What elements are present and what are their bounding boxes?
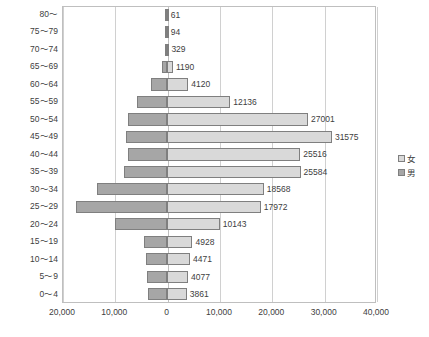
- pyramid-row: 12136: [62, 93, 376, 110]
- bar-value-label: 17972: [264, 200, 288, 214]
- bar-female: [167, 236, 193, 248]
- y-category-label: 30～34: [0, 181, 58, 198]
- bar-female: [167, 26, 169, 38]
- pyramid-row: 25516: [62, 146, 376, 163]
- x-tick-label: 0: [164, 305, 169, 319]
- y-category-label: 15～19: [0, 233, 58, 250]
- pyramid-row: 4077: [62, 268, 376, 285]
- bar-value-label: 4077: [191, 270, 210, 284]
- x-tick-label: 40,000: [363, 305, 389, 319]
- legend-swatch-male: [398, 169, 405, 176]
- x-tick-label: 20,000: [49, 305, 75, 319]
- pyramid-row: 17972: [62, 198, 376, 215]
- bar-value-label: 3861: [190, 287, 209, 301]
- bar-male: [128, 113, 167, 125]
- y-category-label: 0～4: [0, 286, 58, 303]
- y-category-label: 55～59: [0, 93, 58, 110]
- x-tick-label: 20,000: [258, 305, 284, 319]
- pyramid-row: 94: [62, 23, 376, 40]
- bar-value-label: 329: [171, 42, 185, 56]
- bar-value-label: 18568: [267, 182, 291, 196]
- y-category-label: 10～14: [0, 251, 58, 268]
- y-category-label: 25～29: [0, 198, 58, 215]
- bar-male: [97, 183, 167, 195]
- bar-value-label: 94: [171, 25, 180, 39]
- bar-female: [167, 288, 187, 300]
- bar-female: [167, 148, 301, 160]
- bar-male: [147, 271, 166, 283]
- y-category-label: 65～69: [0, 58, 58, 75]
- pyramid-row: 61: [62, 6, 376, 23]
- bar-female: [167, 113, 308, 125]
- bar-value-label: 61: [171, 8, 180, 22]
- bar-male: [137, 96, 167, 108]
- y-category-label: 35～39: [0, 163, 58, 180]
- pyramid-row: 18568: [62, 181, 376, 198]
- bar-female: [167, 44, 169, 56]
- bar-male: [146, 253, 167, 265]
- chart-legend: 女男: [398, 152, 429, 180]
- y-category-label: 20～24: [0, 216, 58, 233]
- bar-female: [167, 78, 189, 90]
- bar-female: [167, 183, 264, 195]
- pyramid-row: 4120: [62, 76, 376, 93]
- x-axis-tick-labels: 20,00010,000010,00020,00030,00040,000: [62, 305, 376, 321]
- pyramid-row: 27001: [62, 111, 376, 128]
- bar-male: [126, 131, 166, 143]
- bar-female: [167, 271, 188, 283]
- legend-label: 女: [407, 154, 416, 164]
- bar-female: [167, 96, 231, 108]
- bar-male: [76, 201, 167, 213]
- y-category-label: 60～64: [0, 76, 58, 93]
- bar-value-label: 25584: [304, 165, 328, 179]
- pyramid-row: 25584: [62, 163, 376, 180]
- y-category-label: 40～44: [0, 146, 58, 163]
- bar-value-label: 4928: [195, 235, 214, 249]
- bar-value-label: 1190: [176, 60, 194, 74]
- pyramid-row: 329: [62, 41, 376, 58]
- bar-female: [167, 131, 332, 143]
- bar-value-label: 27001: [311, 112, 335, 126]
- y-category-label: 80～: [0, 6, 58, 23]
- bar-female: [167, 61, 173, 73]
- bar-male: [148, 288, 167, 300]
- legend-label: 男: [407, 168, 416, 178]
- bar-male: [115, 218, 167, 230]
- y-axis-category-labels: 80～75～7970～7465～6960～6455～5950～5445～4940…: [0, 6, 58, 303]
- bar-female: [167, 9, 169, 21]
- bar-female: [167, 166, 301, 178]
- x-tick-label: 10,000: [206, 305, 232, 319]
- bar-male: [128, 148, 166, 160]
- bar-value-label: 10143: [223, 217, 247, 231]
- pyramid-row: 4928: [62, 233, 376, 250]
- y-category-label: 5～9: [0, 268, 58, 285]
- legend-item[interactable]: 女: [398, 152, 429, 165]
- bar-value-label: 4120: [191, 77, 210, 91]
- bar-value-label: 25516: [303, 147, 327, 161]
- y-category-label: 70～74: [0, 41, 58, 58]
- pyramid-row: 3861: [62, 286, 376, 303]
- gridline-6: [377, 7, 378, 302]
- pyramid-row: 10143: [62, 216, 376, 233]
- bar-female: [167, 253, 190, 265]
- bar-value-label: 4471: [193, 252, 212, 266]
- bar-male: [151, 78, 167, 90]
- bar-male: [124, 166, 166, 178]
- y-category-label: 45～49: [0, 128, 58, 145]
- legend-item[interactable]: 男: [398, 166, 429, 179]
- y-category-label: 75～79: [0, 23, 58, 40]
- bar-value-label: 12136: [233, 95, 257, 109]
- x-tick-label: 30,000: [311, 305, 337, 319]
- bar-female: [167, 218, 220, 230]
- pyramid-row: 31575: [62, 128, 376, 145]
- population-pyramid-chart: 80～75～7970～7465～6960～6455～5950～5445～4940…: [0, 0, 429, 337]
- bars-layer: 6194329119041201213627001315752551625584…: [62, 6, 376, 303]
- bar-male: [144, 236, 167, 248]
- bar-female: [167, 201, 261, 213]
- x-tick-label: 10,000: [101, 305, 127, 319]
- y-category-label: 50～54: [0, 111, 58, 128]
- bar-value-label: 31575: [335, 130, 359, 144]
- pyramid-row: 4471: [62, 251, 376, 268]
- pyramid-row: 1190: [62, 58, 376, 75]
- legend-swatch-female: [398, 155, 405, 162]
